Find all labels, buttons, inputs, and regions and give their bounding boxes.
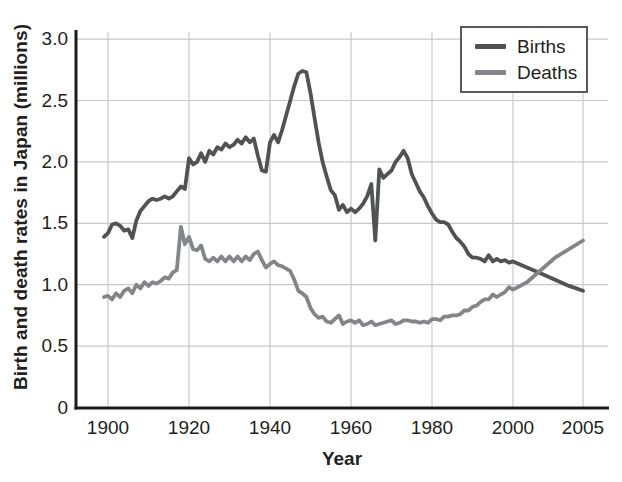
x-tick-label: 2000 [473,417,553,439]
deaths-line [104,227,583,325]
y-tick-label: 3.0 [10,28,68,50]
x-tick-label: 1940 [230,417,310,439]
x-tick-label: 1960 [311,417,391,439]
birth-death-chart-figure: Birth and death rates in Japan (millions… [0,0,622,482]
x-tick-label: 2005 [543,417,622,439]
y-tick-label: 2.5 [10,90,68,112]
y-tick-label: 0.5 [10,335,68,357]
deaths-line-swatch [475,70,506,75]
y-tick-label: 2.0 [10,151,68,173]
y-tick-label: 1.5 [10,212,68,234]
legend: Births Deaths [460,26,588,93]
legend-label-deaths: Deaths [517,63,577,82]
x-tick-label: 1900 [68,417,148,439]
births-line [104,71,583,291]
births-line-swatch [475,44,506,49]
x-axis-title: Year [76,448,608,470]
legend-item-births: Births [475,37,586,56]
y-tick-label: 1.0 [10,274,68,296]
y-tick-label: 0 [10,397,68,419]
legend-item-deaths: Deaths [475,63,586,82]
x-tick-label: 1980 [392,417,472,439]
legend-label-births: Births [517,37,566,56]
x-tick-label: 1920 [149,417,229,439]
